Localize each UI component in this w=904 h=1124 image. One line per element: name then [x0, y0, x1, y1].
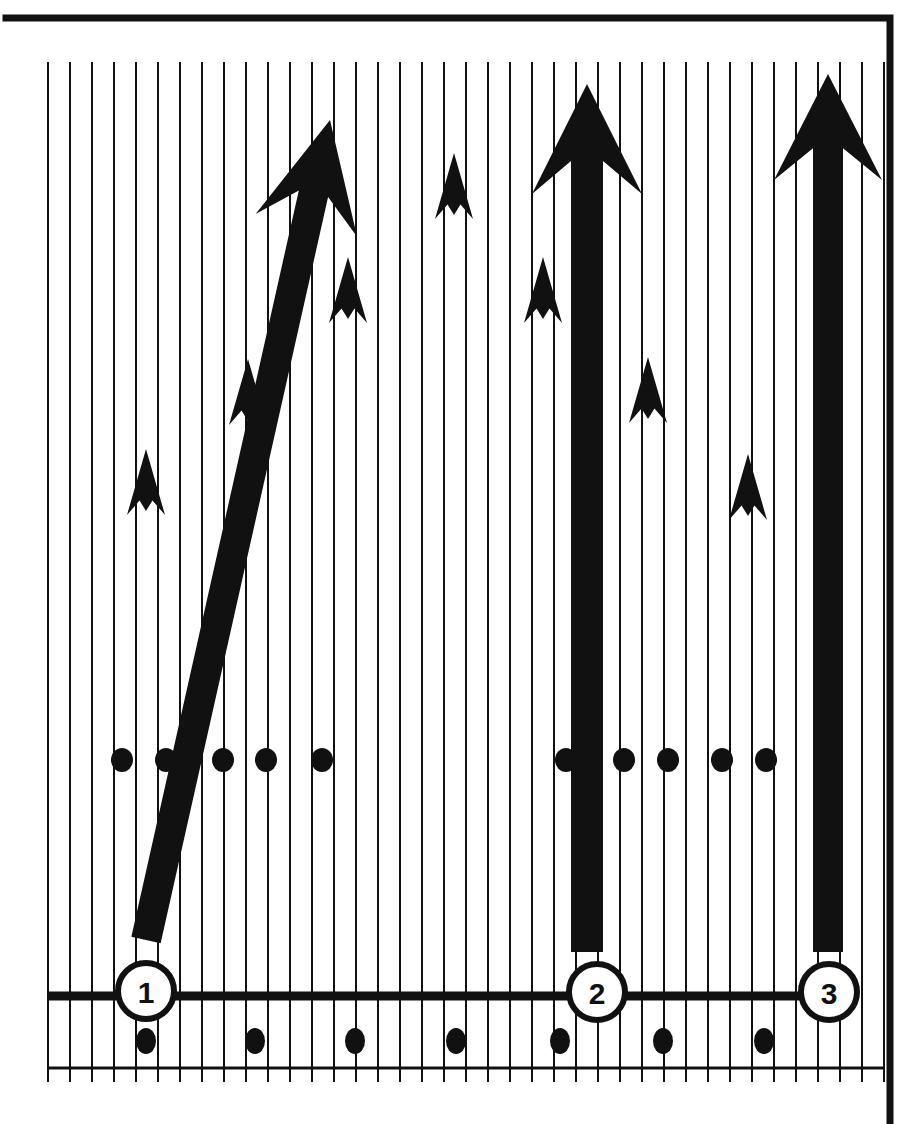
mid-dot — [755, 748, 777, 772]
growth-chart-figure: 123 — [0, 0, 904, 1124]
figure-canvas: 123 — [0, 0, 904, 1124]
mid-dot — [212, 748, 234, 772]
stage-marker-1[interactable]: 1 — [118, 963, 174, 1019]
mid-dot — [613, 748, 635, 772]
stage-marker-label: 2 — [589, 977, 606, 1010]
bottom-dot — [446, 1028, 466, 1054]
bottom-dot — [136, 1028, 156, 1054]
mid-dot — [111, 748, 133, 772]
mid-dot — [711, 748, 733, 772]
bottom-dot — [550, 1028, 570, 1054]
stage-marker-label: 3 — [821, 977, 838, 1010]
bottom-dot — [653, 1028, 673, 1054]
bottom-dot — [754, 1028, 774, 1054]
bottom-dot — [245, 1028, 265, 1054]
mid-dot — [255, 748, 277, 772]
mid-dot — [657, 748, 679, 772]
bottom-dot — [345, 1028, 365, 1054]
stage-marker-2[interactable]: 2 — [569, 964, 625, 1020]
stage-marker-3[interactable]: 3 — [801, 964, 857, 1020]
mid-dot — [311, 748, 333, 772]
stage-marker-label: 1 — [138, 976, 155, 1009]
